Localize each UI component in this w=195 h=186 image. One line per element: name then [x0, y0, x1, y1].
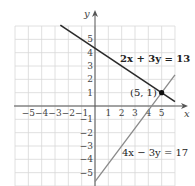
x-tick-label: 3 [132, 108, 138, 118]
x-tick-label: −4 [35, 108, 49, 118]
x-tick-label: −3 [48, 108, 62, 118]
line1-label: 2x + 3y = 13 [120, 53, 190, 64]
y-tick-label: −3 [80, 141, 94, 151]
coordinate-graph: x y −5−4−3−2−11234554321−1−2−3−4−5 2x + … [0, 0, 195, 186]
y-tick-label: 3 [87, 61, 93, 71]
y-tick-label: 4 [87, 48, 93, 58]
x-axis-label: x [184, 108, 190, 119]
equation-lines [60, 25, 175, 181]
point-label: (5, 1) [130, 87, 157, 98]
x-tick-label: −2 [62, 108, 75, 118]
intersection-point [159, 90, 164, 95]
x-tick-label: 5 [159, 108, 165, 118]
y-tick-label: −4 [80, 154, 94, 164]
x-tick-label: 1 [105, 108, 111, 118]
y-tick-label: −1 [80, 114, 93, 124]
y-tick-label: 1 [87, 88, 93, 98]
y-axis-label: y [83, 8, 90, 19]
x-tick-label: −5 [22, 108, 36, 118]
x-tick-label: 2 [119, 108, 125, 118]
y-tick-label: 2 [87, 74, 93, 84]
y-tick-label: −2 [80, 128, 93, 138]
y-tick-label: −5 [80, 168, 94, 178]
line2-label: 4x − 3y = 17 [122, 147, 188, 158]
